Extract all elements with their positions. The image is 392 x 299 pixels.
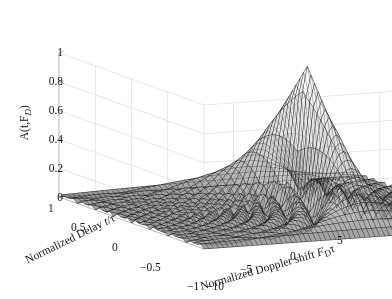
z-tick-label: 0.4 [33,134,63,146]
y-tick-label: 1 [48,203,54,215]
y-tick-label: −1 [187,281,199,293]
ambiguity-function-figure: 1 0.8 0.6 0.4 0.2 0 A(t,FD) 1 0.5 0 −0.5… [0,0,392,299]
z-axis-label-sub: D [23,109,33,115]
z-axis-label: A(t,FD) [19,88,32,158]
y-tick-label: −0.5 [140,262,161,274]
z-axis-label-text: A(t,F [18,116,30,141]
z-tick-label: 0.8 [33,76,63,88]
z-tick-label: 1 [45,47,63,59]
z-axis-label-tail: ) [18,105,30,109]
z-tick-label: 0.6 [33,105,63,117]
x-tick-label: 5 [337,235,343,247]
z-tick-label: 0.2 [33,163,63,175]
y-tick-label: 0 [112,242,118,254]
